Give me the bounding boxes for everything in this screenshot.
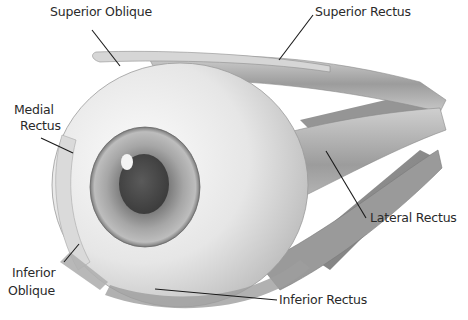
label-inferior-oblique-line1: Inferior — [12, 265, 56, 280]
label-medial-rectus-line2: Rectus — [20, 118, 61, 133]
leader-superior-rectus — [279, 15, 313, 60]
label-inferior-rectus: Inferior Rectus — [279, 292, 367, 307]
label-inferior-oblique-line2: Oblique — [8, 283, 55, 298]
eye-muscle-illustration — [0, 0, 468, 320]
corneal-highlight — [121, 154, 133, 170]
label-superior-rectus: Superior Rectus — [315, 4, 411, 19]
label-superior-oblique: Superior Oblique — [50, 4, 152, 19]
label-lateral-rectus: Lateral Rectus — [370, 210, 457, 225]
iris — [90, 127, 200, 247]
label-medial-rectus-line1: Medial — [14, 102, 54, 117]
